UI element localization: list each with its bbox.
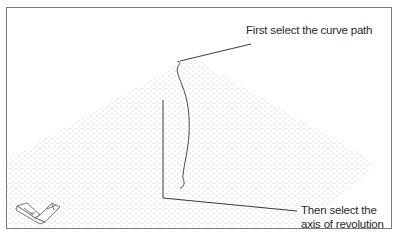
curve-leader-line [180,44,251,61]
curve-callout: First select the curve path [246,23,372,37]
axis-callout-line2: axis of revolution [301,217,384,231]
axis-callout: Then select the axis of revolution [301,203,384,231]
axis-callout-line1: Then select the [301,203,384,217]
